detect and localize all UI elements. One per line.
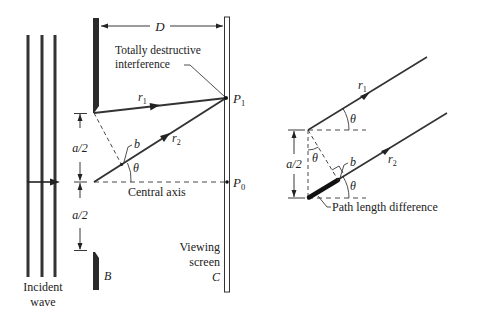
ray-r2-label: r2 [172, 131, 181, 147]
theta-label: θ [133, 161, 139, 175]
right-theta-bottom-arc [343, 177, 349, 199]
ray-r1-label: r1 [138, 90, 147, 106]
right-ray-r1-label: r1 [358, 78, 367, 94]
screen-label-line1: Viewing [179, 240, 220, 254]
incident-wavefronts [28, 35, 55, 277]
right-ray-r1 [308, 57, 427, 130]
distance-D-label: D [154, 19, 165, 34]
point-p0-label: P0 [232, 175, 245, 192]
barrier-bottom [93, 252, 99, 290]
point-b-marker [120, 163, 123, 166]
right-theta-inner-label: θ [312, 151, 318, 165]
annotation-leader-line [184, 65, 225, 97]
destructive-annotation-line2: interference [115, 58, 170, 70]
destructive-annotation-line1: Totally destructive [115, 44, 201, 57]
point-p0-marker [225, 180, 229, 184]
screen-label-letter: C [212, 270, 221, 284]
point-b-label: b [134, 137, 140, 151]
half-width-label-bottom: a/2 [72, 208, 87, 222]
point-p1-marker [224, 96, 228, 100]
central-axis-label: Central axis [128, 185, 186, 199]
right-theta-top-arc [343, 109, 349, 131]
right-ray-r2-label: r2 [388, 152, 397, 168]
right-theta-inner-arc [308, 147, 319, 150]
path-length-difference-label: Path length difference [332, 200, 438, 214]
perpendicular-dashed-line [94, 113, 122, 165]
incident-label-line2: wave [30, 295, 55, 309]
theta-arc [128, 163, 132, 182]
barrier-top [93, 18, 99, 113]
right-point-b-marker [337, 179, 340, 182]
half-width-label-top: a/2 [72, 141, 87, 155]
single-slit-diffraction-diagram: D Totally destructive interference r1 r2… [0, 0, 490, 317]
screen-label-line2: screen [189, 255, 220, 269]
path-length-difference-segment [309, 180, 338, 198]
incident-label-line1: Incident [23, 280, 63, 294]
viewing-screen [225, 17, 230, 292]
barrier-label: B [104, 269, 112, 283]
right-half-width-label: a/2 [286, 157, 301, 171]
point-p1-label: P1 [232, 91, 245, 108]
right-theta-top-label: θ [350, 112, 356, 126]
right-point-b-label: b [350, 155, 356, 169]
right-theta-bottom-label: θ [350, 179, 356, 193]
